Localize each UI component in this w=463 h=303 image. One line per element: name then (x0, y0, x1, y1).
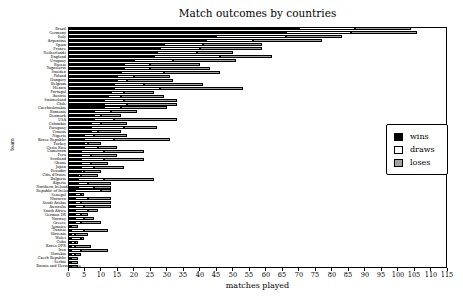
bar-segment-loses (88, 197, 111, 200)
bar-segment-loses (220, 55, 273, 58)
bar-segment-wins (68, 118, 94, 121)
bar-segment-wins (68, 142, 84, 145)
bar-segment-draws (78, 182, 88, 185)
bar-segment-wins (68, 134, 84, 137)
bar-segment-wins (68, 91, 111, 94)
bar-segment-wins (68, 158, 81, 161)
bar-segment-draws (81, 158, 104, 161)
bar-segment-draws (75, 213, 82, 216)
bar-segment-loses (81, 213, 88, 216)
bar-segment-loses (101, 114, 121, 117)
bar-segment-wins (68, 201, 75, 204)
bar-segment-wins (68, 209, 75, 212)
bar-segment-loses (124, 99, 177, 102)
bar-segment-draws (154, 55, 220, 58)
bar-segment-loses (94, 186, 110, 189)
bar-segment-wins (68, 126, 91, 129)
bar-segment-wins (68, 106, 104, 109)
bar-segment-loses (203, 43, 262, 46)
bar-segment-loses (121, 95, 164, 98)
legend-swatch-loses (394, 159, 403, 167)
x-tick-label: 85 (344, 271, 352, 278)
bar-segment-draws (114, 87, 160, 90)
bar-segment-wins (68, 31, 286, 34)
bar-segment-draws (75, 201, 82, 204)
x-tick-label: 40 (196, 271, 204, 278)
x-tick-label: 15 (113, 271, 121, 278)
bar-segment-loses (286, 35, 342, 38)
bar-segment-loses (71, 257, 78, 260)
x-tick-label: 55 (245, 271, 253, 278)
bar-segment-wins (68, 217, 75, 220)
bar-segment-loses (91, 154, 117, 157)
bar-segment-wins (68, 95, 108, 98)
x-tick-label: 70 (295, 271, 303, 278)
bar-segment-loses (124, 91, 154, 94)
bar-segment-wins (68, 122, 91, 125)
bar-segment-draws (84, 134, 94, 137)
bar-segment-loses (104, 150, 144, 153)
bar-segment-draws (206, 39, 252, 42)
bar-segment-wins (68, 162, 81, 165)
bar-segment-wins (68, 170, 81, 173)
bar-segment-loses (114, 118, 177, 121)
bar-segment-draws (94, 110, 110, 113)
bar-segment-draws (91, 126, 124, 129)
bar-segment-loses (114, 138, 170, 141)
x-tick-label: 115 (441, 271, 454, 278)
bar-segment-loses (94, 134, 127, 137)
bar-segment-draws (121, 71, 164, 74)
x-tick-label: 105 (408, 271, 421, 278)
bar-segment-draws (104, 106, 120, 109)
bar-segment-wins (68, 130, 91, 133)
bar-segment-loses (81, 249, 107, 252)
bar-segment-loses (75, 245, 91, 248)
legend-label: wins (410, 130, 429, 143)
bar-segment-loses (150, 67, 209, 70)
bar-segment-draws (94, 118, 114, 121)
legend-label: draws (410, 143, 435, 156)
bar-segment-loses (104, 158, 144, 161)
bar-segment-loses (75, 233, 88, 236)
bar-segment-loses (91, 162, 107, 165)
x-tick-label: 0 (66, 271, 70, 278)
bar-segment-loses (84, 170, 100, 173)
bar-segment-wins (68, 79, 117, 82)
bar-segment-wins (68, 87, 114, 90)
bar-segment-draws (216, 35, 285, 38)
bar-segment-wins (68, 27, 299, 30)
bar-segment-wins (68, 39, 206, 42)
bar-segment-loses (98, 130, 121, 133)
bar-segment-loses (81, 201, 111, 204)
bar-segment-draws (91, 130, 98, 133)
bar-segment-loses (351, 31, 417, 34)
bar-segment-wins (68, 59, 134, 62)
bar-segment-loses (104, 178, 153, 181)
x-tick-label: 10 (97, 271, 105, 278)
bar-segment-wins (68, 114, 94, 117)
bar-segment-loses (144, 83, 203, 86)
x-tick-label: 5 (82, 271, 86, 278)
bar-segment-loses (150, 63, 199, 66)
bar-segment-wins (68, 75, 117, 78)
bar-segment-loses (160, 87, 242, 90)
bar-segment-wins (68, 63, 124, 66)
bar-segment-loses (124, 126, 157, 129)
bar-segment-draws (75, 205, 85, 208)
bar-segment-loses (81, 174, 97, 177)
bar-segment-wins (68, 205, 75, 208)
bar-segment-loses (88, 209, 98, 212)
bar-segment-wins (68, 174, 78, 177)
bar-segment-draws (81, 154, 91, 157)
bar-segment-loses (164, 71, 220, 74)
bar-segment-wins (68, 103, 104, 106)
bar-segment-wins (68, 154, 81, 157)
legend-label: loses (410, 156, 430, 169)
bar-segment-draws (81, 150, 104, 153)
bar-segment-loses (111, 110, 137, 113)
bar-segment-loses (127, 79, 173, 82)
x-axis-title: matches played (68, 281, 447, 290)
bar-segment-wins (68, 166, 81, 169)
x-tick-label: 50 (229, 271, 237, 278)
figure: Match outcomes by countries team BrazilG… (0, 0, 463, 303)
